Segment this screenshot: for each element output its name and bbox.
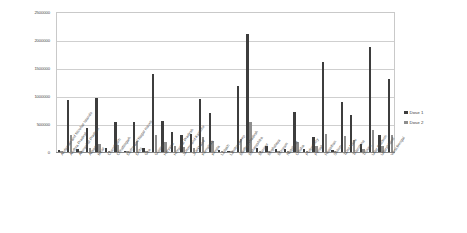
x-axis-tick-label: Jharkhand <box>190 153 196 233</box>
x-axis-tick-label: Sikkim <box>331 153 337 233</box>
x-axis-tick-label: Haryana <box>161 153 167 233</box>
bar-group <box>293 12 298 152</box>
x-axis-tick-label: Lakshadweep <box>227 153 233 233</box>
bar-group <box>388 12 393 152</box>
bar-group <box>246 12 251 152</box>
y-axis-tick-label: 2500000 <box>34 10 50 15</box>
x-axis-tick-label: Karnataka <box>199 153 205 233</box>
y-axis-tick-label: 1500000 <box>34 66 50 71</box>
bar-group <box>322 12 327 152</box>
x-axis-tick-label: Tamil Nadu <box>341 153 347 233</box>
x-axis-tick-label: Madhya Pradesh <box>237 153 243 233</box>
bar-group <box>341 12 346 152</box>
legend-item: Dose 1 <box>404 110 462 115</box>
legend-label: Dose 2 <box>410 120 424 125</box>
bar-group <box>360 12 365 152</box>
bar-group <box>124 12 129 152</box>
bar-group <box>218 12 223 152</box>
x-axis-tick-label: Nagaland <box>284 153 290 233</box>
bar-group <box>227 12 232 152</box>
bar-group <box>171 12 176 152</box>
x-axis-tick-label: Chhattisgarh <box>114 153 120 233</box>
y-axis-tick-label: 500000 <box>37 122 50 127</box>
y-axis-tick-label: 1000000 <box>34 94 50 99</box>
y-axis: 25000002000000150000010000005000000 <box>0 0 54 164</box>
x-axis-tick-label: Tripura <box>360 153 366 233</box>
x-axis-labels: Andaman and Nicobar IslandsAndhra Prades… <box>56 153 395 233</box>
x-axis-tick-label: Himachal Pradesh <box>171 153 177 233</box>
legend-item: Dose 2 <box>404 120 462 125</box>
x-axis-tick-label: Odisha <box>293 153 299 233</box>
bar-group <box>209 12 214 152</box>
bar-group <box>378 12 383 152</box>
x-axis-tick-label: Dadra and Nagar Haveli <box>124 153 130 233</box>
x-axis-tick-label: Uttar Pradesh <box>369 153 375 233</box>
bar-group <box>275 12 280 152</box>
chart-container: 25000002000000150000010000005000000 Anda… <box>0 0 467 233</box>
bar-group <box>114 12 119 152</box>
y-axis-tick-label: 0 <box>48 150 50 155</box>
x-axis-tick-label: Arunachal Pradesh <box>76 153 82 233</box>
x-axis-tick-label: Andhra Pradesh <box>67 153 73 233</box>
x-axis-tick-label: Maharashtra <box>246 153 252 233</box>
x-axis-tick-label: Puducherry <box>303 153 309 233</box>
bar-group <box>265 12 270 152</box>
chart-legend: Dose 1Dose 2 <box>404 110 462 130</box>
x-axis-tick-label: Meghalaya <box>265 153 271 233</box>
bar-group <box>350 12 355 152</box>
legend-label: Dose 1 <box>410 110 424 115</box>
legend-swatch-icon <box>404 121 408 125</box>
x-axis-tick-label: Assam <box>86 153 92 233</box>
x-axis-tick-label: Uttarakhand <box>378 153 384 233</box>
legend-swatch-icon <box>404 111 408 115</box>
x-axis-tick-label: Telangana <box>350 153 356 233</box>
bar-group <box>331 12 336 152</box>
bar-group <box>133 12 138 152</box>
bar-group <box>67 12 72 152</box>
bar-group <box>180 12 185 152</box>
bar-group <box>284 12 289 152</box>
bar-group <box>152 12 157 152</box>
x-axis-tick-label: Chandigarh <box>105 153 111 233</box>
bar-group <box>58 12 63 152</box>
x-axis-tick-label: Manipur <box>256 153 262 233</box>
bar-group <box>303 12 308 152</box>
bar-group <box>161 12 166 152</box>
x-axis-tick-label: Bihar <box>95 153 101 233</box>
x-axis-tick-label: Mizoram <box>275 153 281 233</box>
x-axis-tick-label: Rajasthan <box>322 153 328 233</box>
bar-group <box>312 12 317 152</box>
bar-series-group <box>56 12 395 152</box>
x-axis-tick-label: Jammu and Kashmir <box>180 153 186 233</box>
x-axis-tick-label: West Bengal <box>388 153 394 233</box>
x-axis-tick-label: Gujarat <box>152 153 158 233</box>
bar-group <box>369 12 374 152</box>
y-axis-tick-label: 2000000 <box>34 38 50 43</box>
x-axis-tick-label: Goa <box>142 153 148 233</box>
bar-group <box>237 12 242 152</box>
x-axis-tick-label: Andaman and Nicobar Islands <box>58 153 64 233</box>
x-axis-tick-label: Ladakh <box>218 153 224 233</box>
x-axis-tick-label: Punjab <box>312 153 318 233</box>
x-axis-tick-label: Delhi <box>133 153 139 233</box>
bar-group <box>105 12 110 152</box>
x-axis-tick-label: Kerala <box>209 153 215 233</box>
